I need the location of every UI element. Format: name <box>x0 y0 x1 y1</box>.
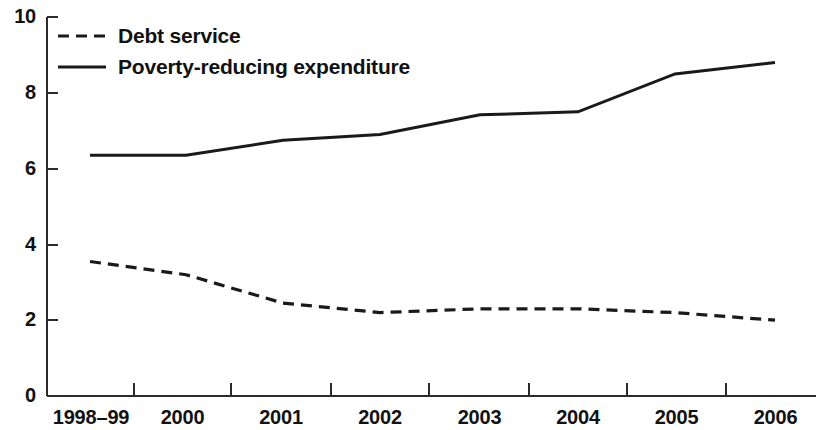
x-tick-label-2003: 2003 <box>430 406 529 429</box>
line-chart: 10 8 6 4 2 0 1998–99 2000 2001 2002 2003… <box>0 0 816 430</box>
y-tick-label-6: 6 <box>2 157 36 180</box>
y-tick-label-2: 2 <box>2 308 36 331</box>
x-tick-label-2005: 2005 <box>627 406 726 429</box>
x-tick-label-2002: 2002 <box>330 406 430 429</box>
dashed-line-icon <box>58 29 106 43</box>
x-tick-label-2004: 2004 <box>529 406 627 429</box>
legend: Debt service Poverty-reducing expenditur… <box>58 22 410 80</box>
x-tick-marks <box>134 383 726 396</box>
series-line-debt-service <box>90 262 775 321</box>
y-tick-marks <box>47 17 58 320</box>
x-tick-label-2000: 2000 <box>130 406 235 429</box>
y-tick-label-8: 8 <box>2 81 36 104</box>
legend-label-debt-service: Debt service <box>118 24 241 48</box>
solid-line-icon <box>58 60 106 74</box>
y-tick-label-0: 0 <box>2 384 36 407</box>
x-tick-label-2006: 2006 <box>726 406 816 429</box>
legend-item-debt-service: Debt service <box>58 22 410 49</box>
legend-label-poverty-reducing-expenditure: Poverty-reducing expenditure <box>118 55 410 79</box>
y-tick-label-10: 10 <box>2 5 36 28</box>
legend-item-poverty-reducing-expenditure: Poverty-reducing expenditure <box>58 53 410 80</box>
y-tick-label-4: 4 <box>2 233 36 256</box>
x-tick-label-2001: 2001 <box>231 406 331 429</box>
